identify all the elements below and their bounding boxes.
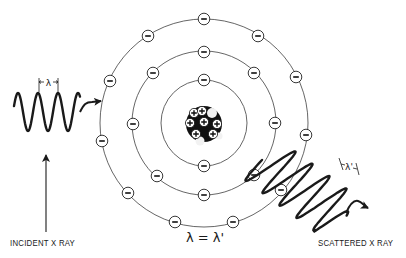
proton	[197, 106, 206, 115]
electron	[122, 187, 134, 199]
scattered-wave-path	[246, 151, 349, 232]
incident-wave-arrow	[80, 101, 101, 112]
electron	[300, 129, 312, 141]
proton	[212, 119, 221, 128]
incident-wave-path	[14, 93, 80, 131]
proton	[191, 129, 200, 138]
electron	[248, 67, 260, 79]
proton	[199, 117, 208, 126]
scattered-wavelength-label: λ'	[345, 162, 353, 172]
electron	[290, 71, 302, 83]
neutron	[207, 108, 217, 118]
electron	[127, 118, 139, 130]
electron	[198, 160, 210, 172]
electron	[96, 135, 108, 147]
incident-wave: λ	[14, 78, 101, 132]
electron	[198, 74, 210, 86]
electron	[169, 216, 181, 228]
scattered-wave-arrow	[346, 201, 368, 213]
electron	[227, 216, 239, 228]
electron	[198, 13, 210, 25]
electron	[151, 170, 163, 182]
electron	[198, 189, 210, 201]
electron	[104, 75, 116, 87]
electron	[147, 67, 159, 79]
electron	[142, 30, 154, 42]
proton	[185, 118, 194, 127]
electron	[269, 117, 281, 129]
compton-diagram: λ λ'	[0, 0, 406, 258]
incident-x-ray-label: INCIDENT X RAY	[10, 237, 75, 248]
nucleus	[185, 106, 222, 146]
scattered-x-ray-label: SCATTERED X RAY	[318, 237, 393, 248]
incident-wavelength-label: λ	[46, 78, 52, 88]
electron	[252, 30, 264, 42]
wavelength-equation: λ = λ'	[186, 230, 224, 245]
electron	[198, 46, 210, 58]
proton	[208, 129, 217, 138]
